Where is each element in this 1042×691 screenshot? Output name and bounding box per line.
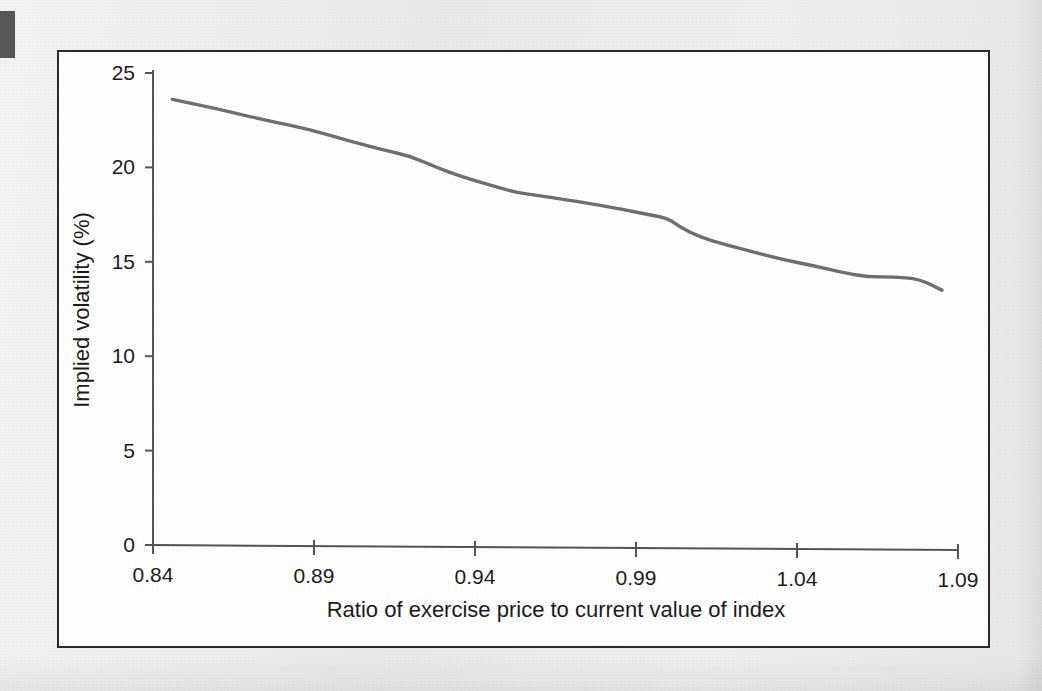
scanned-page: 0510152025 0.840.890.940.991.041.09 Rati… — [0, 0, 1042, 691]
figure-frame: 0510152025 0.840.890.940.991.041.09 Rati… — [57, 50, 990, 648]
scan-shadow-bottom — [0, 657, 1042, 691]
y-tick-label: 0 — [123, 533, 135, 556]
y-tick-label: 5 — [123, 439, 135, 462]
x-tick-label: 0.99 — [616, 566, 657, 589]
x-tick-label: 0.84 — [133, 563, 174, 586]
x-tick-label: 0.89 — [294, 564, 335, 587]
y-tick-label: 10 — [112, 344, 135, 367]
y-tick-label: 25 — [112, 61, 135, 84]
volatility-skew-chart: 0510152025 0.840.890.940.991.041.09 Rati… — [59, 52, 988, 646]
x-axis-title: Ratio of exercise price to current value… — [327, 597, 786, 622]
y-tick-label: 15 — [112, 250, 135, 273]
x-tick-label: 1.04 — [777, 567, 818, 590]
x-axis-line — [153, 545, 958, 550]
x-axis-tick-labels: 0.840.890.940.991.041.09 — [133, 563, 979, 591]
y-axis-title: Implied volatility (%) — [69, 212, 94, 408]
y-tick-label: 20 — [112, 155, 135, 178]
y-axis-tick-labels: 0510152025 — [112, 61, 135, 556]
implied-volatility-line — [172, 99, 942, 290]
x-tick-label: 1.09 — [938, 568, 979, 591]
page-edge-mark — [0, 11, 15, 58]
scan-shadow-right — [1016, 0, 1042, 691]
x-tick-label: 0.94 — [455, 565, 496, 588]
